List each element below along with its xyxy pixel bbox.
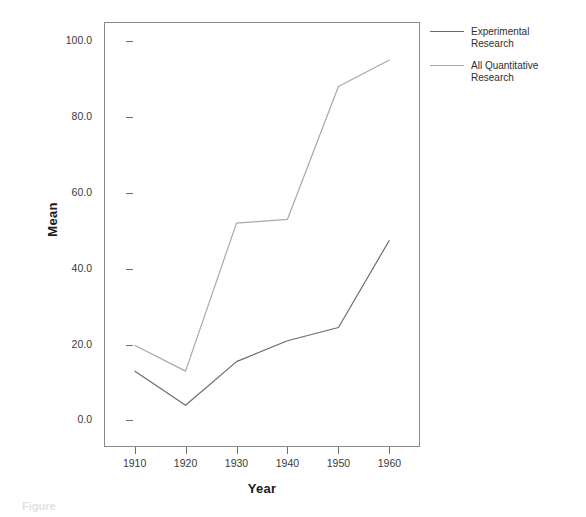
legend-label-line2: Research [471,38,514,49]
x-tick-mark [389,447,390,454]
x-tick-label: 1940 [265,457,309,469]
chart-container: 0.020.040.060.080.0100.0 Mean 1910192019… [0,0,586,517]
legend-label-all-quantitative-research: All Quantitative Research [471,60,538,83]
legend-entry-all-quantitative-research[interactable]: All Quantitative Research [430,60,580,83]
y-tick-label: 0.0 [77,413,92,425]
x-tick-mark [186,447,187,454]
y-tick-label: 80.0 [72,110,92,122]
x-tick-label: 1930 [215,457,259,469]
y-tick-mark [126,345,133,346]
x-axis-title: Year [104,481,420,496]
x-tick-label: 1910 [113,457,157,469]
y-tick-mark [126,193,133,194]
legend-line-swatch-icon [430,60,464,72]
x-tick-mark [287,447,288,454]
y-tick-label: 40.0 [72,262,92,274]
plot-frame [104,22,420,447]
legend-label-line1: All Quantitative [471,60,538,71]
x-tick-mark [135,447,136,454]
y-tick-mark [126,41,133,42]
legend-line-swatch-icon [430,26,464,38]
legend-label-line1: Experimental [471,26,529,37]
legend-label-experimental-research: Experimental Research [471,26,529,49]
y-tick-mark [126,269,133,270]
legend: Experimental Research All Quantitative R… [430,26,580,94]
y-axis-title: Mean [45,160,60,280]
x-tick-label: 1950 [316,457,360,469]
x-tick-mark [237,447,238,454]
x-tick-label: 1920 [164,457,208,469]
x-tick-label: 1960 [367,457,411,469]
legend-entry-experimental-research[interactable]: Experimental Research [430,26,580,49]
y-tick-mark [126,117,133,118]
y-tick-label: 20.0 [72,338,92,350]
y-tick-label: 60.0 [72,186,92,198]
y-tick-label: 100.0 [66,34,92,46]
x-tick-mark [338,447,339,454]
figure-caption: Figure [22,500,56,514]
legend-label-line2: Research [471,72,514,83]
y-tick-mark [126,420,133,421]
